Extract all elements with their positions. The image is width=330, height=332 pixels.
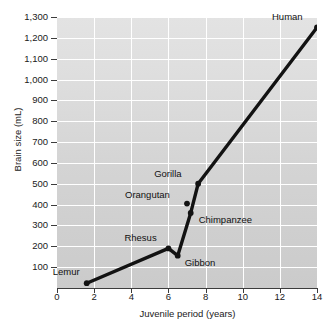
x-tick-label: 2 [91,292,96,302]
data-point-gorilla [195,181,201,187]
x-axis-line [57,288,318,289]
y-tick [51,121,57,122]
y-tick [51,267,57,268]
x-tick-label: 14 [312,292,323,302]
brain-size-chart: LemurRhesusGibbonOrangutanChimpanzeeGori… [0,0,330,332]
y-tick [51,205,57,206]
point-label-rhesus: Rhesus [124,233,156,243]
y-tick-label: 100 [0,262,48,272]
y-tick [51,142,57,143]
y-tick-label: 800 [0,116,48,126]
y-tick [51,100,57,101]
y-tick-label: 1,300 [0,12,48,22]
x-axis-title: Juvenile period (years) [57,308,318,319]
y-tick [51,246,57,247]
plot-area [57,17,317,288]
point-label-chimpanzee: Chimpanzee [199,215,252,225]
point-label-lemur: Lemur [53,267,80,277]
y-tick [51,17,57,18]
point-label-gorilla: Gorilla [154,169,181,179]
y-tick-label: 300 [0,220,48,230]
data-point-gibbon [175,253,181,259]
y-axis-title: Brain size (mL) [12,70,23,210]
y-tick-label: 500 [0,179,48,189]
y-tick [51,225,57,226]
y-tick [51,163,57,164]
y-tick-label: 200 [0,241,48,251]
y-tick [51,184,57,185]
x-tick-label: 6 [166,292,171,302]
y-tick [51,59,57,60]
data-point-orangutan [184,201,190,207]
y-tick-label: 700 [0,137,48,147]
x-tick-label: 4 [129,292,134,302]
y-tick [51,38,57,39]
y-tick-label: 1,100 [0,54,48,64]
x-tick-label: 10 [237,292,248,302]
y-tick-label: 1,200 [0,33,48,43]
y-tick-label: 1,000 [0,75,48,85]
y-tick [51,80,57,81]
series-line [87,27,317,283]
y-tick-label: 900 [0,95,48,105]
x-tick-label: 0 [54,292,59,302]
x-tick-label: 8 [203,292,208,302]
series-points [84,25,317,287]
point-label-orangutan: Orangutan [125,190,170,200]
point-label-human: Human [272,12,303,22]
data-point-rhesus [166,245,172,251]
point-label-gibbon: Gibbon [185,258,216,268]
y-tick-label: 600 [0,158,48,168]
series-plot [57,17,317,288]
data-point-chimpanzee [188,210,194,216]
y-tick-label: 400 [0,200,48,210]
x-tick-label: 12 [275,292,286,302]
data-point-lemur [84,280,90,286]
